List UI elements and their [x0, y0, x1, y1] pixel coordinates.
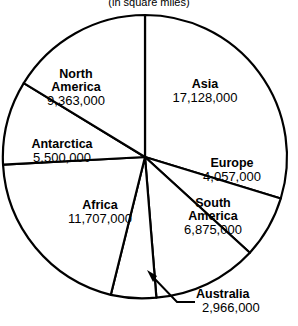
slice-label-south-america-value: 6,875,000: [167, 223, 259, 237]
slice-label-africa: Africa 11,707,000: [48, 199, 152, 226]
slice-label-africa-value: 11,707,000: [48, 212, 152, 226]
slice-label-asia-value: 17,128,000: [160, 91, 250, 105]
slice-label-antarctica: Antarctica 5,500,000: [14, 138, 110, 165]
slice-label-north-america-value: 9,363,000: [33, 94, 119, 108]
slice-label-australia: Australia 2,966,000: [196, 288, 296, 315]
slice-label-north-america: North America 9,363,000: [33, 68, 119, 108]
slice-label-south-america: South America 6,875,000: [167, 197, 259, 237]
slice-label-antarctica-value: 5,500,000: [14, 151, 110, 165]
slice-label-australia-value: 2,966,000: [196, 301, 296, 315]
slice-label-europe-value: 4,057,000: [186, 170, 278, 184]
pie-chart-figure: (in square miles) North America 9,363,00…: [0, 0, 298, 326]
slice-label-europe: Europe 4,057,000: [186, 157, 278, 184]
slice-label-asia: Asia 17,128,000: [160, 78, 250, 105]
